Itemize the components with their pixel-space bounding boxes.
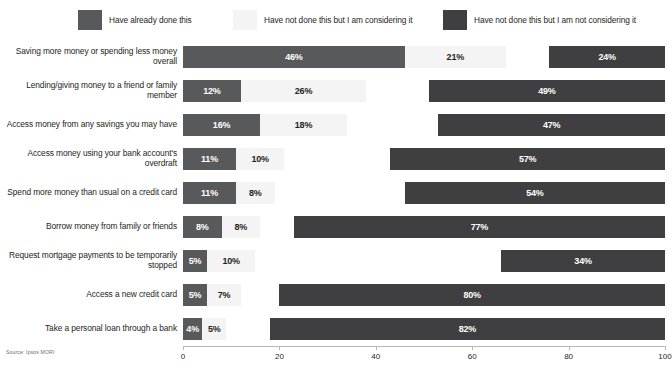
bar-segment-not-considering[interactable]: 49% — [429, 80, 665, 102]
legend-item-consider[interactable]: Have not done this but I am considering … — [233, 10, 412, 30]
bar-row: Request mortgage payments to be temporar… — [0, 244, 669, 278]
legend-swatch-not — [443, 10, 467, 30]
bar-segment-not-considering[interactable]: 57% — [390, 148, 665, 170]
bar-segment-not-considering[interactable]: 34% — [501, 250, 665, 272]
category-label: Access money from any savings you may ha… — [3, 108, 177, 142]
bar-group: 4%5%82% — [183, 312, 665, 346]
bar-segment-not-considering[interactable]: 80% — [279, 284, 665, 306]
bar-row: Access money from any savings you may ha… — [0, 108, 669, 142]
bar-segment-considering[interactable]: 5% — [202, 318, 226, 340]
legend-label-done: Have already done this — [109, 16, 192, 24]
bar-segment-considering[interactable]: 7% — [207, 284, 241, 306]
bar-segment-not-considering[interactable]: 54% — [405, 182, 665, 204]
bar-segment-not-considering[interactable]: 77% — [294, 216, 665, 238]
legend-item-done[interactable]: Have already done this — [78, 10, 192, 30]
x-axis-tick-label: 80 — [564, 352, 573, 361]
bar-row: Access money using your bank account's o… — [0, 142, 669, 176]
bar-segment-considering[interactable]: 21% — [405, 46, 506, 68]
bar-group: 8%8%77% — [183, 210, 665, 244]
bar-group: 12%26%49% — [183, 74, 665, 108]
bar-segment-considering[interactable]: 10% — [207, 250, 255, 272]
legend-item-not[interactable]: Have not done this but I am not consider… — [443, 10, 636, 30]
legend-swatch-done — [78, 10, 102, 30]
category-label: Borrow money from family or friends — [3, 210, 177, 244]
x-axis-line — [183, 346, 665, 347]
bar-segment-considering[interactable]: 8% — [222, 216, 261, 238]
bar-segment-done[interactable]: 16% — [183, 114, 260, 136]
bar-group: 11%8%54% — [183, 176, 665, 210]
bar-segment-done[interactable]: 8% — [183, 216, 222, 238]
category-label: Take a personal loan through a bank — [3, 312, 177, 346]
legend-swatch-consider — [233, 10, 257, 30]
bar-row: Saving more money or spending less money… — [0, 40, 669, 74]
bar-row: Take a personal loan through a bank4%5%8… — [0, 312, 669, 346]
bar-group: 11%10%57% — [183, 142, 665, 176]
category-label: Lending/giving money to a friend or fami… — [3, 74, 177, 108]
category-label: Request mortgage payments to be temporar… — [3, 244, 177, 278]
bar-segment-considering[interactable]: 10% — [236, 148, 284, 170]
x-axis-tick-mark — [183, 346, 184, 350]
bar-segment-considering[interactable]: 8% — [236, 182, 275, 204]
bar-group: 5%7%80% — [183, 278, 665, 312]
x-axis-tick-mark — [472, 346, 473, 350]
bar-row: Access a new credit card5%7%80% — [0, 278, 669, 312]
category-label: Access a new credit card — [3, 278, 177, 312]
legend-label-consider: Have not done this but I am considering … — [264, 16, 412, 24]
bar-segment-done[interactable]: 12% — [183, 80, 241, 102]
x-axis-tick-mark — [665, 346, 666, 350]
bar-segment-done[interactable]: 4% — [183, 318, 202, 340]
source-note: Source: Ipsos MORI — [6, 349, 55, 355]
x-axis-tick-label: 0 — [181, 352, 185, 361]
bar-segment-done[interactable]: 11% — [183, 148, 236, 170]
bar-segment-done[interactable]: 11% — [183, 182, 236, 204]
x-axis: 020406080100 — [183, 346, 665, 374]
bar-segment-not-considering[interactable]: 47% — [438, 114, 665, 136]
x-axis-tick-mark — [279, 346, 280, 350]
chart-legend: Have already done thisHave not done this… — [0, 0, 669, 40]
x-axis-tick-label: 100 — [658, 352, 671, 361]
bar-segment-considering[interactable]: 26% — [241, 80, 366, 102]
x-axis-tick-label: 60 — [468, 352, 477, 361]
bar-segment-considering[interactable]: 18% — [260, 114, 347, 136]
bar-segment-not-considering[interactable]: 24% — [549, 46, 665, 68]
bar-segment-done[interactable]: 46% — [183, 46, 405, 68]
bar-group: 46%21%24% — [183, 40, 665, 74]
x-axis-tick-label: 20 — [275, 352, 284, 361]
bar-segment-done[interactable]: 5% — [183, 284, 207, 306]
category-label: Saving more money or spending less money… — [3, 40, 177, 74]
bar-rows: Saving more money or spending less money… — [0, 40, 669, 346]
bar-row: Lending/giving money to a friend or fami… — [0, 74, 669, 108]
bar-row: Borrow money from family or friends8%8%7… — [0, 210, 669, 244]
legend-label-not: Have not done this but I am not consider… — [474, 16, 636, 24]
x-axis-tick-mark — [569, 346, 570, 350]
bar-group: 16%18%47% — [183, 108, 665, 142]
x-axis-tick-mark — [376, 346, 377, 350]
category-label: Spend more money than usual on a credit … — [3, 176, 177, 210]
bar-row: Spend more money than usual on a credit … — [0, 176, 669, 210]
bar-segment-not-considering[interactable]: 82% — [270, 318, 665, 340]
bar-group: 5%10%34% — [183, 244, 665, 278]
chart-plot-area: Saving more money or spending less money… — [0, 40, 669, 374]
x-axis-tick-label: 40 — [371, 352, 380, 361]
bar-segment-done[interactable]: 5% — [183, 250, 207, 272]
category-label: Access money using your bank account's o… — [3, 142, 177, 176]
